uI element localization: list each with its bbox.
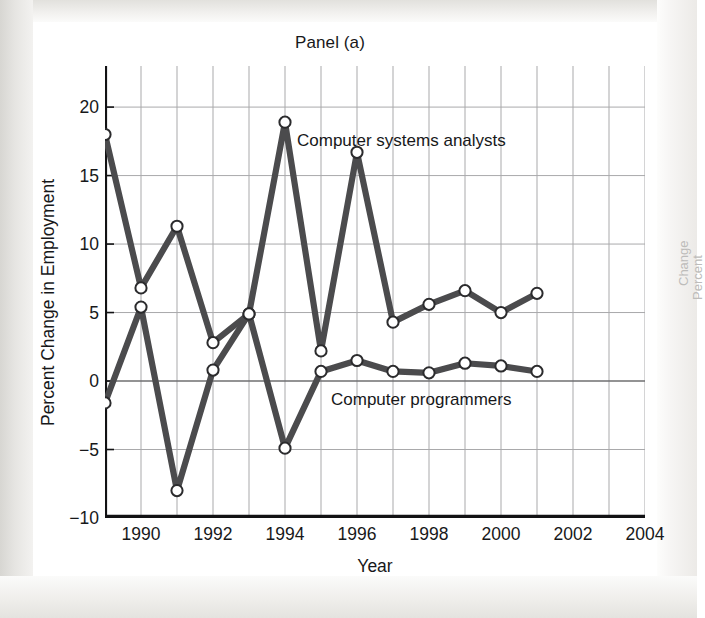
series-label-analysts: Computer systems analysts <box>297 131 506 151</box>
y-tick-label: 15 <box>55 165 99 186</box>
x-tick-label: 2000 <box>466 524 536 545</box>
x-tick-label: 1994 <box>250 524 320 545</box>
x-tick-label: 1998 <box>394 524 464 545</box>
x-tick-label: 2004 <box>610 524 680 545</box>
x-tick-label: 1992 <box>178 524 248 545</box>
y-tick-label: 0 <box>55 371 99 392</box>
ghost-text-fragment-2: Change <box>676 240 691 286</box>
y-tick-label: 10 <box>55 234 99 255</box>
x-axis-tick-labels: 19901992199419961998200020022004 <box>105 524 665 550</box>
x-axis-label: Year <box>105 556 645 577</box>
y-tick-label: 5 <box>55 302 99 323</box>
x-tick-label: 1996 <box>322 524 392 545</box>
series-label-programmers: Computer programmers <box>331 390 511 410</box>
chart-title: Panel (a) <box>0 33 660 53</box>
y-tick-label: −10 <box>55 508 99 529</box>
y-axis-tick-labels: 20151050−5−10 <box>49 66 99 518</box>
y-tick-label: −5 <box>55 439 99 460</box>
y-tick-label: 20 <box>55 97 99 118</box>
x-tick-label: 2002 <box>538 524 608 545</box>
x-tick-label: 1990 <box>106 524 176 545</box>
ghost-text-fragment-1: Percent <box>690 255 705 300</box>
